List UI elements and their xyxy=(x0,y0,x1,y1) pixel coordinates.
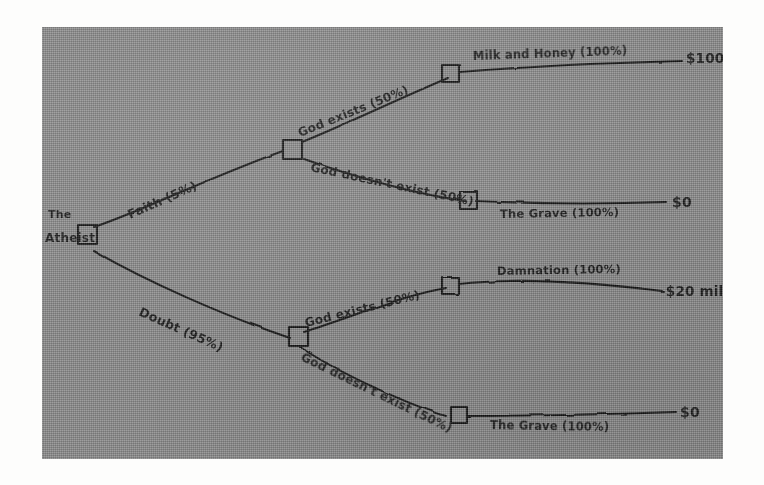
branch-label-faith: Faith (5%) xyxy=(125,178,199,222)
branch-label-faith-god-exists: God exists (50%) xyxy=(296,83,411,140)
edge-damnation xyxy=(459,281,662,291)
payoff-damnation: -$20 million xyxy=(660,283,723,299)
payoff-milk-and-honey: $100 million xyxy=(686,50,723,66)
edge-grave-lower xyxy=(468,412,676,416)
outcome-label-damnation: Damnation (100%) xyxy=(497,262,621,278)
outcome-label-milk-and-honey: Milk and Honey (100%) xyxy=(473,44,628,63)
node-grave-lower-outcome xyxy=(451,407,467,423)
edge-faith-god-exists xyxy=(302,78,448,142)
node-doubt-chance xyxy=(289,327,308,346)
edge-grave-upper xyxy=(476,201,666,203)
outcome-label-grave-upper: The Grave (100%) xyxy=(500,205,619,221)
root-label-line2: Atheist xyxy=(45,231,95,245)
node-faith-chance xyxy=(283,140,302,159)
branch-label-doubt-god-exists: God exists (50%) xyxy=(303,288,421,330)
payoff-grave-upper: $0 xyxy=(672,194,692,210)
branch-label-faith-god-not-exists: God doesn't exist (50%) xyxy=(309,160,475,208)
decision-tree-canvas: The Atheist Faith (5%) Doubt (95%) God e… xyxy=(42,27,723,459)
branch-label-doubt-god-not-exists: God doesn't exist (50%) xyxy=(299,350,455,436)
node-damnation-outcome xyxy=(442,277,459,294)
outcome-label-grave-lower: The Grave (100%) xyxy=(490,418,609,434)
branch-label-doubt: Doubt (95%) xyxy=(137,304,226,355)
edge-milk-and-honey xyxy=(460,61,682,72)
photograph-of-handdrawn-diagram: The Atheist Faith (5%) Doubt (95%) God e… xyxy=(42,27,723,459)
payoff-grave-lower: $0 xyxy=(680,404,700,420)
root-label-line1: The xyxy=(48,208,71,221)
